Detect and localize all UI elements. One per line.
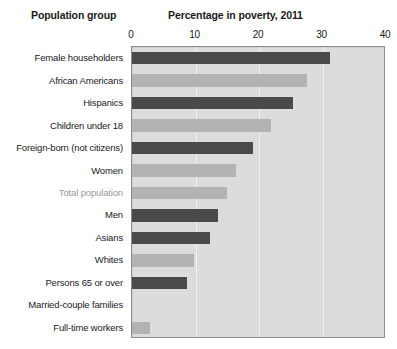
bar-row <box>132 322 384 335</box>
bar <box>132 232 210 245</box>
bar-row <box>132 232 384 245</box>
category-label: Persons 65 or over <box>45 276 123 287</box>
category-axis-labels: Female householdersAfrican AmericansHisp… <box>0 46 127 338</box>
bar <box>132 322 150 335</box>
x-tick-40: 40 <box>380 29 391 40</box>
bar <box>132 74 307 87</box>
bar <box>132 209 218 222</box>
x-tick-20: 20 <box>253 29 264 40</box>
bar-series <box>132 47 384 337</box>
bar-row <box>132 142 384 155</box>
bar <box>132 187 227 200</box>
bar <box>132 277 187 290</box>
x-axis: 010203040 <box>131 29 385 44</box>
bar <box>132 52 330 65</box>
plot-area <box>131 46 385 338</box>
bar-row <box>132 187 384 200</box>
x-tick-30: 30 <box>316 29 327 40</box>
x-tick-0: 0 <box>128 29 133 40</box>
category-label: Foreign-born (not citizens) <box>16 142 123 153</box>
category-label: Whites <box>95 254 123 265</box>
category-label: Hispanics <box>83 97 123 108</box>
category-label: Men <box>105 209 123 220</box>
bar-row <box>132 209 384 222</box>
percentage-header: Percentage in poverty, 2011 <box>168 9 303 21</box>
bar <box>132 119 271 132</box>
bar-row <box>132 254 384 267</box>
x-tick-10: 10 <box>189 29 200 40</box>
bar-row <box>132 119 384 132</box>
bar-row <box>132 52 384 65</box>
bar <box>132 142 253 155</box>
category-label: Children under 18 <box>50 119 123 130</box>
bar-row <box>132 97 384 110</box>
category-label: African Americans <box>49 74 123 85</box>
bar-row <box>132 164 384 177</box>
poverty-bar-chart: Population group Percentage in poverty, … <box>0 0 397 349</box>
bar <box>132 97 293 110</box>
category-label: Asians <box>95 231 123 242</box>
category-label: Total population <box>59 187 123 198</box>
bar-row <box>132 299 384 312</box>
category-label: Female householders <box>34 52 123 63</box>
population-group-header: Population group <box>31 9 116 21</box>
bar-row <box>132 74 384 87</box>
bar <box>132 254 194 267</box>
bar-row <box>132 277 384 290</box>
category-label: Full-time workers <box>53 321 123 332</box>
bar <box>132 164 236 177</box>
category-label: Married-couple families <box>28 299 123 310</box>
category-label: Women <box>91 164 123 175</box>
